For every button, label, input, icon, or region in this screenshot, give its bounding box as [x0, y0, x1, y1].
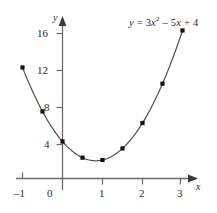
y-axis: [59, 16, 67, 190]
y-tick-label-8: 8: [44, 102, 50, 113]
equation-annotation: y = 3x2 – 5x + 4: [129, 16, 198, 28]
graph-figure: y x 16 12 8 4 –1 0 1 2 3 y = 3x2 – 5x + …: [0, 0, 217, 213]
data-point: [120, 146, 124, 150]
x-tick-label-neg1: –1: [14, 188, 25, 199]
x-tick-label-2: 2: [139, 188, 145, 199]
y-tick-label-12: 12: [37, 65, 48, 76]
y-tick-marks: [57, 34, 63, 145]
x-tick-label-1: 1: [99, 188, 105, 199]
equation-minus: –: [163, 17, 168, 28]
y-tick-label-16: 16: [37, 28, 48, 39]
equation-var-lin: x: [176, 17, 181, 28]
data-point: [160, 82, 164, 86]
data-point: [60, 139, 64, 143]
x-axis: [16, 175, 198, 183]
equation-constant: 4: [193, 17, 198, 28]
data-point: [100, 158, 104, 162]
data-point: [20, 65, 24, 69]
equation-exponent: 2: [156, 15, 160, 23]
y-tick-label-4: 4: [44, 139, 50, 150]
y-axis-label: y: [53, 13, 57, 23]
parabola-plot: [0, 0, 217, 213]
x-tick-label-3: 3: [177, 188, 183, 199]
data-point: [140, 121, 144, 125]
data-point: [80, 156, 84, 160]
x-axis-label: x: [196, 182, 200, 192]
data-point: [180, 28, 184, 32]
equation-plus: +: [184, 17, 190, 28]
equation-equals: =: [137, 17, 143, 28]
x-tick-label-0: 0: [47, 188, 53, 199]
equation-lhs: y: [129, 17, 134, 28]
